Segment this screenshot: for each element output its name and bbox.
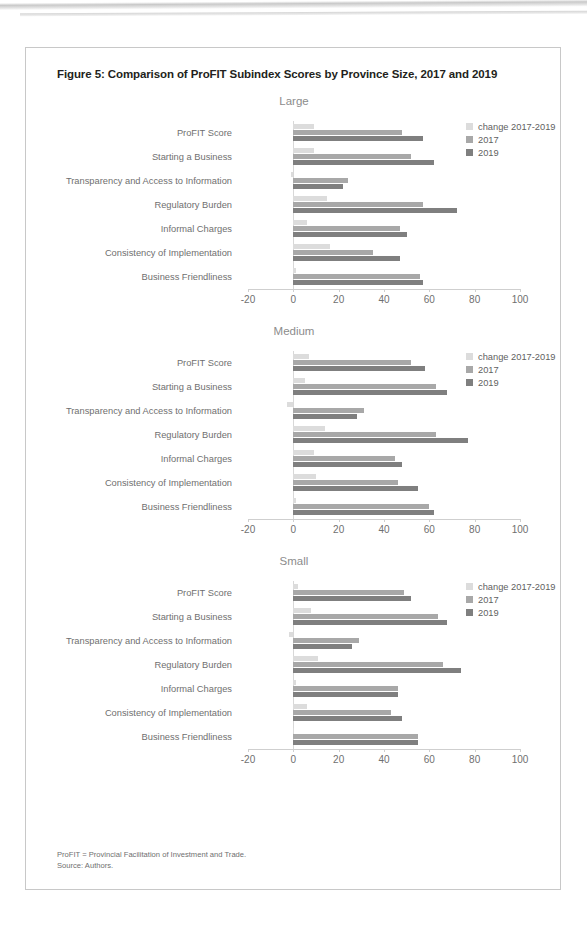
bar-2019 bbox=[293, 280, 422, 285]
bar-2019 bbox=[293, 232, 406, 237]
x-axis-tick bbox=[475, 749, 476, 752]
bar-change bbox=[293, 426, 325, 431]
bar-2019 bbox=[293, 462, 402, 467]
bar-2019 bbox=[293, 160, 434, 165]
category-label: Starting a Business bbox=[26, 375, 240, 399]
x-axis-tick-label: 60 bbox=[424, 524, 435, 535]
bar-2017 bbox=[293, 504, 429, 509]
bar-2017 bbox=[293, 456, 395, 461]
bar-change bbox=[293, 584, 298, 589]
bar-2019 bbox=[293, 414, 356, 419]
bar-group bbox=[248, 217, 520, 241]
x-axis-tick-label: 20 bbox=[333, 294, 344, 305]
category-label: Consistency of Implementation bbox=[26, 701, 240, 725]
bar-change bbox=[293, 220, 307, 225]
bar-group bbox=[248, 193, 520, 217]
legend-item-2017[interactable]: 2017 bbox=[466, 134, 556, 145]
figure-title: Figure 5: Comparison of ProFIT Subindex … bbox=[57, 68, 497, 80]
bar-2019 bbox=[293, 438, 468, 443]
legend-label: 2019 bbox=[478, 148, 499, 158]
legend-label: change 2017-2019 bbox=[478, 352, 556, 362]
bar-2019 bbox=[293, 184, 343, 189]
bar-group bbox=[248, 677, 520, 701]
bar-2017 bbox=[293, 154, 411, 159]
legend-item-change[interactable]: change 2017-2019 bbox=[466, 351, 556, 362]
x-axis-tick bbox=[293, 289, 294, 292]
bar-2017 bbox=[293, 686, 397, 691]
bar-change bbox=[293, 608, 311, 613]
bar-change bbox=[289, 632, 294, 637]
bar-2017 bbox=[293, 202, 422, 207]
bar-2019 bbox=[293, 716, 402, 721]
bar-2019 bbox=[293, 486, 418, 491]
bar-change bbox=[293, 498, 295, 503]
bar-change bbox=[293, 680, 295, 685]
bar-group bbox=[248, 725, 520, 749]
x-axis-tick bbox=[475, 519, 476, 522]
category-label: Consistency of Implementation bbox=[26, 241, 240, 265]
legend-swatch-icon bbox=[466, 149, 473, 156]
x-axis-tick-label: 100 bbox=[512, 294, 529, 305]
bar-2019 bbox=[293, 740, 418, 745]
x-axis-tick bbox=[384, 519, 385, 522]
category-label: Starting a Business bbox=[26, 605, 240, 629]
figure-container: Figure 5: Comparison of ProFIT Subindex … bbox=[25, 47, 561, 890]
category-label: Transparency and Access to Information bbox=[26, 169, 240, 193]
bar-group bbox=[248, 495, 520, 519]
x-axis-tick bbox=[384, 749, 385, 752]
legend-item-2017[interactable]: 2017 bbox=[466, 364, 556, 375]
legend-item-2019[interactable]: 2019 bbox=[466, 377, 556, 388]
legend-item-2017[interactable]: 2017 bbox=[466, 594, 556, 605]
category-label: Informal Charges bbox=[26, 217, 240, 241]
legend-item-change[interactable]: change 2017-2019 bbox=[466, 121, 556, 132]
x-axis-tick-label: 20 bbox=[333, 754, 344, 765]
bar-2017 bbox=[293, 638, 359, 643]
x-axis-tick-label: 80 bbox=[469, 754, 480, 765]
legend-swatch-icon bbox=[466, 583, 473, 590]
bar-change bbox=[293, 704, 307, 709]
bar-group bbox=[248, 265, 520, 289]
category-label: Business Friendliness bbox=[26, 725, 240, 749]
bar-2019 bbox=[293, 390, 447, 395]
bar-change bbox=[293, 728, 294, 733]
x-axis-tick-label: 0 bbox=[291, 754, 297, 765]
bar-group bbox=[248, 399, 520, 423]
legend-item-2019[interactable]: 2019 bbox=[466, 607, 556, 618]
bar-change bbox=[293, 196, 327, 201]
bar-group bbox=[248, 629, 520, 653]
legend-item-change[interactable]: change 2017-2019 bbox=[466, 581, 556, 592]
bar-change bbox=[293, 378, 304, 383]
panel-title-medium: Medium bbox=[26, 325, 562, 337]
bar-2019 bbox=[293, 136, 422, 141]
bar-2019 bbox=[293, 366, 424, 371]
legend-swatch-icon bbox=[466, 609, 473, 616]
legend: change 2017-201920172019 bbox=[466, 351, 556, 390]
bar-change bbox=[293, 244, 329, 249]
bar-2017 bbox=[293, 408, 363, 413]
bar-change bbox=[293, 450, 313, 455]
bar-change bbox=[293, 354, 309, 359]
bar-group bbox=[248, 423, 520, 447]
legend-label: 2019 bbox=[478, 608, 499, 618]
bar-change bbox=[293, 124, 313, 129]
bar-change bbox=[293, 474, 316, 479]
bar-group bbox=[248, 241, 520, 265]
bar-change bbox=[293, 148, 313, 153]
bar-2019 bbox=[293, 620, 447, 625]
x-axis-tick bbox=[248, 519, 249, 522]
panel-title-large: Large bbox=[26, 95, 562, 107]
legend-item-2019[interactable]: 2019 bbox=[466, 147, 556, 158]
x-axis-tick-label: 40 bbox=[378, 294, 389, 305]
category-labels: ProFIT ScoreStarting a BusinessTranspare… bbox=[26, 121, 240, 289]
x-axis-tick-label: 100 bbox=[512, 524, 529, 535]
bar-2017 bbox=[293, 662, 443, 667]
figure-footnote: ProFIT = Provincial Facilitation of Inve… bbox=[57, 849, 246, 871]
x-axis-tick bbox=[339, 519, 340, 522]
category-label: Transparency and Access to Information bbox=[26, 399, 240, 423]
bar-2017 bbox=[293, 226, 400, 231]
category-label: Consistency of Implementation bbox=[26, 471, 240, 495]
bar-group bbox=[248, 701, 520, 725]
legend-swatch-icon bbox=[466, 123, 473, 130]
legend-label: 2017 bbox=[478, 595, 499, 605]
bar-2017 bbox=[293, 480, 397, 485]
